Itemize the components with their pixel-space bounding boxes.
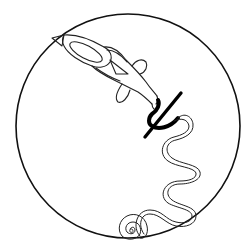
background	[0, 0, 252, 252]
drawing-canvas	[0, 0, 252, 252]
